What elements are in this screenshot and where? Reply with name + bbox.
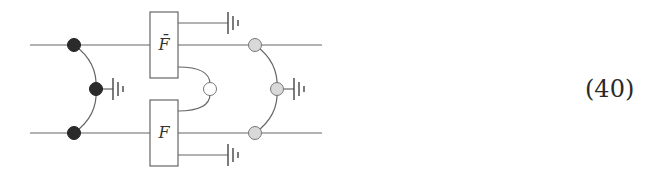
ground-icon-left [113,78,123,100]
ground-icon-bottom [228,144,238,166]
box-f-bar-label: F̄ [157,33,170,54]
box-f-label: F [157,123,170,142]
light-node-middle [271,83,284,96]
dark-node-bottom [68,127,81,140]
center-loop-bottom [178,94,210,111]
light-node-top [249,39,262,52]
ground-icon-right [294,78,304,100]
circuit-diagram: F̄ F [0,0,661,174]
ground-icon-top [228,12,238,34]
dark-node-middle [90,83,103,96]
equation-number: (40) [585,75,634,103]
dark-node-top [68,39,81,52]
white-node-center [204,83,217,96]
light-node-bottom [249,127,262,140]
center-loop-top [178,67,210,84]
